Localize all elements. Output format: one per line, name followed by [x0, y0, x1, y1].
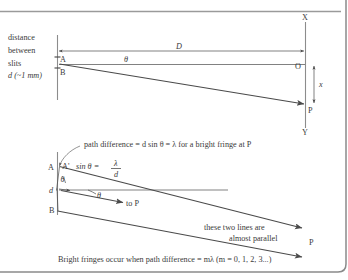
fringe-offset-label-x: x [318, 80, 323, 89]
slit-label-line-1: distance [8, 33, 35, 42]
figure-container: distance between slits d (~1 mm) A B θ D… [0, 0, 348, 280]
centre-point-label-o: O [295, 62, 301, 71]
point-a-label-top: A [60, 55, 66, 64]
point-b-label-bottom: B [49, 206, 55, 215]
to-p-arrow [61, 191, 123, 203]
to-p-label: to P [126, 199, 139, 208]
slit-label-line-2: between [8, 46, 35, 55]
distance-d-label: D [175, 42, 182, 51]
parallel-note-line-2: almost parallel [229, 234, 278, 243]
screen-top-label-x: X [302, 13, 308, 22]
slit-gap-label-d: d [49, 186, 54, 195]
slit-separation-label: d (~1 mm) [8, 71, 42, 80]
equation-numerator: λ [113, 159, 118, 168]
physics-diagram: distance between slits d (~1 mm) A B θ D… [0, 0, 348, 280]
angle-theta-lower-label: θ [97, 191, 101, 200]
slit-label-line-3: slits [8, 59, 21, 68]
screen-bottom-label-y: Y [302, 128, 308, 137]
equation-lhs: sin θ = [76, 162, 99, 171]
callout-text: path difference = d sin θ = λ for a brig… [84, 140, 252, 149]
fringe-point-label-p-top: P [308, 106, 313, 115]
caption-text: Bright fringes occur when path differenc… [58, 255, 272, 264]
equation-denominator: d [114, 170, 119, 179]
parallel-note-line-1: these two lines are [204, 223, 265, 232]
point-a-label-bottom: A [48, 163, 54, 172]
figure-border [0, 0, 346, 272]
ray-to-fringe-p [60, 64, 305, 104]
fringe-point-label-p-bottom: P [309, 238, 314, 247]
point-a-prime-label: A' [62, 162, 70, 171]
angle-theta-upper-label: θ [61, 175, 65, 184]
point-b-label-top: B [60, 68, 66, 77]
angle-theta-label-top: θ [124, 55, 128, 64]
angle-arc-lower [88, 190, 96, 194]
